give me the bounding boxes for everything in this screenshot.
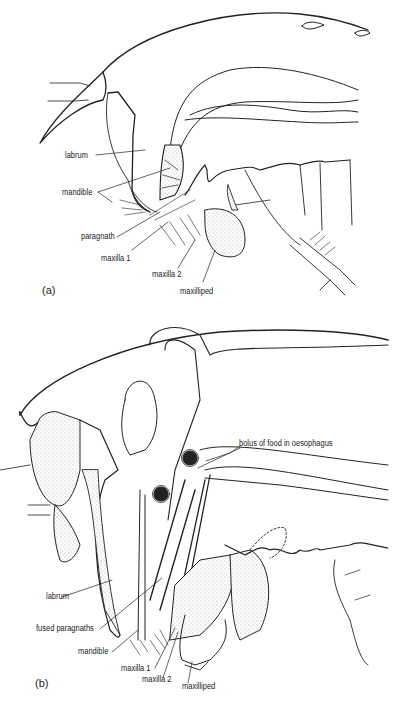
label-b-maxilla-1: maxilla 1	[121, 664, 151, 673]
figure-a-drawing	[40, 13, 370, 295]
label-a-paragnath: paragnath	[81, 232, 115, 241]
label-b-fused-paragnaths: fused paragnaths	[36, 624, 94, 633]
panel-label-a: (a)	[42, 284, 55, 296]
label-b-maxilliped: maxilliped	[182, 682, 215, 691]
label-a-mandible: mandible	[62, 188, 92, 197]
label-b-bolus: bolus of food in oesophagus	[239, 439, 333, 448]
label-b-mandible: mandible	[78, 647, 108, 656]
panel-label-b: (b)	[35, 677, 48, 689]
label-a-maxilliped: maxilliped	[180, 287, 213, 296]
label-a-labrum: labrum	[65, 151, 88, 160]
label-a-maxilla-1: maxilla 1	[101, 254, 131, 263]
label-a-maxilla-2: maxilla 2	[152, 270, 182, 279]
label-b-labrum: labrum	[46, 592, 69, 601]
label-b-maxilla-2: maxilla 2	[142, 675, 172, 684]
